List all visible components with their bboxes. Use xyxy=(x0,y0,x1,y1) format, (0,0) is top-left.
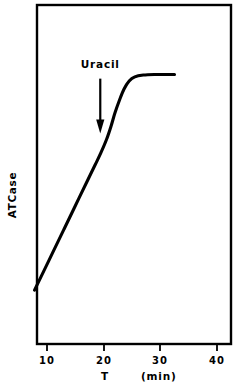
x-tick-label-30: 30 xyxy=(145,355,175,366)
plot-frame xyxy=(37,5,231,344)
x-tick-label-40: 40 xyxy=(202,355,232,366)
x-tick-label-20: 20 xyxy=(89,355,119,366)
x-axis-title: T xyxy=(101,370,109,382)
y-axis-title-text: ATCase xyxy=(6,172,18,218)
x-axis-ticks xyxy=(47,345,217,351)
chart-figure: Uracil ATCase 10 20 30 40 T (min) xyxy=(0,0,244,390)
x-axis-units: (min) xyxy=(141,370,177,382)
uracil-annotation-label: Uracil xyxy=(71,58,129,70)
x-tick-label-10: 10 xyxy=(32,355,62,366)
y-axis-title: ATCase xyxy=(0,160,24,230)
